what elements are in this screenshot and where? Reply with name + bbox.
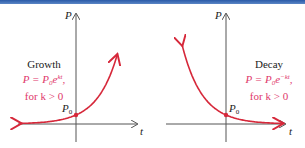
intercept-label: P0 <box>62 103 72 116</box>
growth-graph: P t P0 Growth P = P0ekt, for k > 0 <box>0 0 152 148</box>
eq-exp: −kt <box>280 73 290 81</box>
eq-lhs: P = P <box>245 73 271 85</box>
x-axis-label: t <box>140 126 143 137</box>
eq-trail: , <box>290 73 293 85</box>
eq-trail: , <box>62 73 65 85</box>
intercept-label: P0 <box>229 103 239 116</box>
intercept-label-text: P <box>229 102 236 114</box>
growth-condition: for k > 0 <box>14 90 74 103</box>
intercept-point <box>224 113 228 117</box>
decay-condition: for k > 0 <box>236 90 302 103</box>
decay-title: Decay <box>236 58 302 71</box>
intercept-point <box>74 113 78 117</box>
intercept-label-sub: 0 <box>69 108 73 116</box>
decay-equation: P = P0e−kt, <box>236 71 302 90</box>
x-axis-label: t <box>289 126 292 137</box>
decay-caption: Decay P = P0e−kt, for k > 0 <box>236 58 302 103</box>
growth-equation: P = P0ekt, <box>14 71 74 90</box>
y-axis-label: P <box>215 10 222 21</box>
y-axis-label: P <box>65 10 72 21</box>
intercept-label-sub: 0 <box>236 108 240 116</box>
growth-caption: Growth P = P0ekt, for k > 0 <box>14 58 74 103</box>
growth-title: Growth <box>14 58 74 71</box>
intercept-label-text: P <box>62 102 69 114</box>
eq-lhs: P = P <box>23 73 49 85</box>
decay-graph: P t P0 Decay P = P0e−kt, for k > 0 <box>152 0 304 148</box>
